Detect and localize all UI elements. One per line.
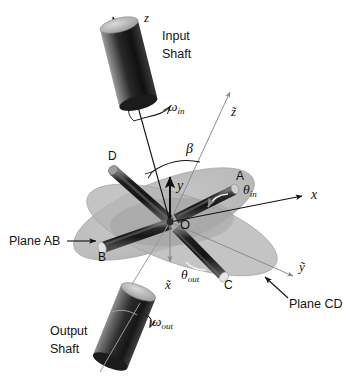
plane-ab-label: Plane AB bbox=[9, 235, 60, 248]
theta-in-symbol: θ bbox=[243, 182, 250, 197]
omega-out-symbol: ω bbox=[152, 314, 162, 329]
omega-in-subscript: in bbox=[178, 106, 185, 116]
theta-out-label: θout bbox=[181, 268, 199, 284]
point-label-d: D bbox=[108, 150, 117, 162]
beta-label: β bbox=[186, 142, 193, 156]
omega-in-label: ωin bbox=[168, 100, 185, 116]
axis-label-y: y bbox=[177, 179, 183, 193]
beta-angle-arc bbox=[152, 160, 200, 172]
output-shaft-label-line1: Output bbox=[50, 325, 88, 338]
plane-cd-label: Plane CD bbox=[289, 298, 343, 311]
input-shaft-label-line1: Input bbox=[162, 30, 191, 43]
origin-dot bbox=[167, 219, 174, 226]
axis-label-z-tilde: z̃ bbox=[231, 105, 236, 118]
axis-label-x: x bbox=[311, 188, 317, 202]
origin-label: O bbox=[180, 218, 190, 231]
axis-label-y-tilde: ỹ bbox=[299, 260, 305, 273]
omega-out-label: ωout bbox=[152, 315, 173, 331]
theta-out-subscript: out bbox=[188, 274, 200, 284]
input-shaft-label-line2: Shaft bbox=[162, 48, 191, 61]
output-shaft-cylinder bbox=[91, 279, 158, 375]
omega-out-subscript: out bbox=[162, 321, 174, 331]
output-shaft-label-line2: Shaft bbox=[50, 343, 88, 356]
theta-in-label: θin bbox=[243, 183, 257, 199]
theta-out-symbol: θ bbox=[181, 267, 188, 282]
omega-in-symbol: ω bbox=[168, 99, 178, 114]
theta-in-subscript: in bbox=[250, 189, 257, 199]
output-shaft-label: Output Shaft bbox=[50, 325, 88, 355]
axis-label-z: z bbox=[144, 11, 149, 24]
point-label-b: B bbox=[98, 251, 106, 263]
point-label-a: A bbox=[236, 170, 244, 182]
point-label-c: C bbox=[224, 279, 233, 291]
input-shaft-cylinder bbox=[98, 14, 159, 115]
input-shaft-label: Input Shaft bbox=[162, 30, 191, 60]
axis-label-x-tilde: x̃ bbox=[165, 278, 171, 291]
figure-canvas: z z̃ y x x̃ ỹ O β Input Shaft Output Sh… bbox=[0, 0, 350, 388]
plane-cd-leader bbox=[265, 277, 288, 298]
